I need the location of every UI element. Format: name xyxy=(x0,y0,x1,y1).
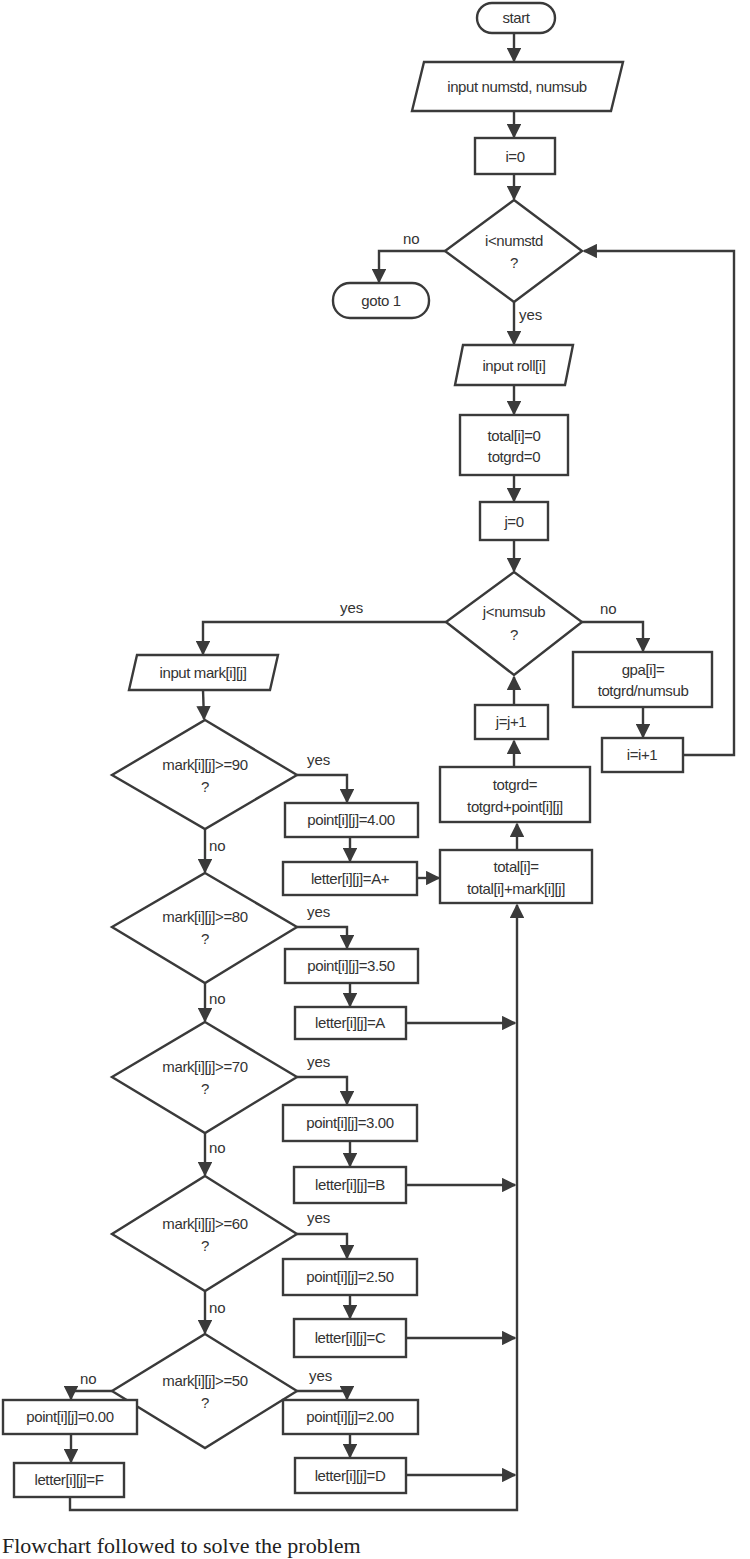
edge-label-no-50: no xyxy=(80,1370,97,1387)
cond-i-q: ? xyxy=(510,254,518,271)
node-letter-c: letter[i][j]=C xyxy=(294,1319,406,1357)
edge-cond-i-no-to-goto xyxy=(379,251,445,282)
letter-a-label: letter[i][j]=A xyxy=(315,1014,385,1031)
init-i-label: i=0 xyxy=(505,148,524,165)
start-label: start xyxy=(502,9,530,26)
letter-aplus-label: letter[i][j]=A+ xyxy=(311,870,390,887)
node-letter-b: letter[i][j]=B xyxy=(294,1167,406,1203)
edge-label-yes-50: yes xyxy=(309,1367,332,1384)
edge-label-no-cond-j: no xyxy=(600,600,617,617)
node-input-counts: input numstd, numsub xyxy=(412,62,623,111)
cond-70-label: mark[i][j]>=70 xyxy=(162,1058,247,1075)
edge-label-yes-70: yes xyxy=(307,1053,330,1070)
edge-label-no-90: no xyxy=(209,837,226,854)
point-3-label: point[i][j]=3.00 xyxy=(306,1114,393,1131)
init-totgrd-label: totgrd=0 xyxy=(488,448,540,465)
letter-f-label: letter[i][j]=F xyxy=(34,1471,103,1488)
node-point-4: point[i][j]=4.00 xyxy=(285,803,418,837)
node-cond-80: mark[i][j]>=80 ? xyxy=(112,873,297,983)
node-letter-a: letter[i][j]=A xyxy=(295,1007,406,1039)
node-point-2: point[i][j]=2.00 xyxy=(283,1400,418,1434)
gpa-label-2: totgrd/numsub xyxy=(598,682,689,699)
edge-input-mark-to-cond-90 xyxy=(203,690,204,719)
letter-d-label: letter[i][j]=D xyxy=(315,1467,386,1484)
edge-label-no-60: no xyxy=(209,1299,226,1316)
cond-j-q: ? xyxy=(510,626,518,643)
node-start: start xyxy=(477,3,555,33)
node-input-roll: input roll[i] xyxy=(455,345,573,385)
edge-cond50-yes xyxy=(297,1391,347,1399)
cond-60-label: mark[i][j]>=60 xyxy=(162,1215,247,1232)
point-4-label: point[i][j]=4.00 xyxy=(307,811,394,828)
cond-90-label: mark[i][j]>=90 xyxy=(162,756,247,773)
edge-cond-j-yes-to-input-mark xyxy=(203,622,446,654)
cond-70-q: ? xyxy=(201,1080,209,1097)
cond-80-q: ? xyxy=(201,930,209,947)
edge-cond60-yes xyxy=(297,1234,347,1258)
edge-cond-j-no-to-gpa xyxy=(582,622,643,651)
gpa-label-1: gpa[i]= xyxy=(622,661,665,678)
goto1-label: goto 1 xyxy=(361,292,400,309)
edge-label-no-cond-i: no xyxy=(403,230,420,247)
edge-label-yes-cond-i: yes xyxy=(519,306,542,323)
node-init-i: i=0 xyxy=(475,138,555,174)
edge-label-no-80: no xyxy=(209,990,226,1007)
point-25-label: point[i][j]=2.50 xyxy=(306,1268,393,1285)
totgrd-label-1: totgrd= xyxy=(493,776,538,793)
cond-90-q: ? xyxy=(201,778,209,795)
node-inc-j: j=j+1 xyxy=(475,705,548,739)
node-letter-f: letter[i][j]=F xyxy=(14,1463,124,1497)
node-cond-60: mark[i][j]>=60 ? xyxy=(112,1176,297,1291)
node-cond-70: mark[i][j]>=70 ? xyxy=(112,1022,297,1133)
node-goto1: goto 1 xyxy=(333,283,429,318)
input-mark-label: input mark[i][j] xyxy=(160,664,247,681)
edge-label-yes-cond-j: yes xyxy=(340,599,363,616)
node-gpa: gpa[i]= totgrd/numsub xyxy=(573,652,712,707)
node-point-0: point[i][j]=0.00 xyxy=(3,1400,137,1434)
point-35-label: point[i][j]=3.50 xyxy=(307,957,394,974)
node-letter-d: letter[i][j]=D xyxy=(295,1458,406,1493)
node-input-mark: input mark[i][j] xyxy=(129,655,278,690)
node-init-totals: total[i]=0 totgrd=0 xyxy=(460,415,568,475)
point-2-label: point[i][j]=2.00 xyxy=(306,1408,393,1425)
edge-label-yes-90: yes xyxy=(307,751,330,768)
edge-cond90-yes xyxy=(297,775,347,802)
cond-60-q: ? xyxy=(201,1237,209,1254)
node-point-35: point[i][j]=3.50 xyxy=(285,949,418,983)
inc-j-label: j=j+1 xyxy=(495,713,527,730)
node-inc-i: i=i+1 xyxy=(602,738,683,772)
letter-c-label: letter[i][j]=C xyxy=(315,1329,386,1346)
node-init-j: j=0 xyxy=(480,502,548,540)
node-cond-i: i<numstd ? xyxy=(445,200,582,302)
edge-label-yes-80: yes xyxy=(307,903,330,920)
init-total-label: total[i]=0 xyxy=(487,427,540,444)
cond-i-label: i<numstd xyxy=(485,232,543,249)
node-totgrd-update: totgrd= totgrd+point[i][j] xyxy=(440,767,590,822)
init-j-label: j=0 xyxy=(503,513,523,530)
node-letter-aplus: letter[i][j]=A+ xyxy=(283,862,417,895)
node-point-25: point[i][j]=2.50 xyxy=(283,1259,417,1295)
node-cond-90: mark[i][j]>=90 ? xyxy=(112,720,297,829)
node-point-3: point[i][j]=3.00 xyxy=(283,1105,417,1141)
inc-i-label: i=i+1 xyxy=(627,746,658,763)
point-0-label: point[i][j]=0.00 xyxy=(26,1408,113,1425)
input-roll-label: input roll[i] xyxy=(482,357,545,374)
edge-cond50-no xyxy=(71,1391,112,1399)
letter-b-label: letter[i][j]=B xyxy=(315,1176,385,1193)
figure-caption: Flowchart followed to solve the problem xyxy=(2,1533,361,1559)
node-cond-j: j<numsub ? xyxy=(446,572,582,675)
edge-cond70-yes xyxy=(297,1077,347,1104)
cond-50-q: ? xyxy=(201,1394,209,1411)
total-label-1: total[i]= xyxy=(493,858,539,875)
edge-cond80-yes xyxy=(297,927,347,948)
cond-50-label: mark[i][j]>=50 xyxy=(162,1372,247,1389)
total-label-2: total[i]+mark[i][j] xyxy=(467,880,565,897)
totgrd-label-2: totgrd+point[i][j] xyxy=(467,798,563,815)
cond-80-label: mark[i][j]>=80 xyxy=(162,908,247,925)
edge-label-yes-60: yes xyxy=(307,1209,330,1226)
cond-j-label: j<numsub xyxy=(482,603,545,620)
edge-label-no-70: no xyxy=(209,1139,226,1156)
node-cond-50: mark[i][j]>=50 ? xyxy=(112,1334,297,1448)
input-counts-label: input numstd, numsub xyxy=(447,78,587,95)
